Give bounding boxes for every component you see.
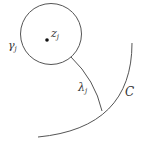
label-z-sub: j [57,33,59,41]
diagram-graphics [0,0,141,141]
label-gamma-main: γ [8,39,15,52]
label-z-main: z [51,27,57,40]
label-z: zj [51,28,59,39]
label-lambda-main: λ [78,81,85,94]
label-lambda-sub: j [85,87,87,95]
label-gamma: γj [8,40,17,51]
label-c: C [125,86,134,98]
label-lambda: λj [78,82,87,93]
diagram: γj zj λj C [0,0,141,141]
label-gamma-sub: j [15,45,17,53]
label-c-main: C [125,85,134,99]
center-point [45,38,49,42]
